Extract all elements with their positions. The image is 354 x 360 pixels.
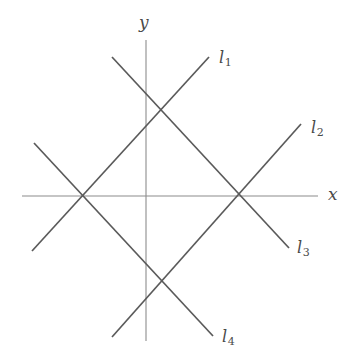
lines-group: [32, 57, 301, 337]
line-label-l1: l1: [219, 50, 232, 68]
line-label-l2: l2: [311, 120, 324, 138]
line-label-l2-subscript: 2: [316, 126, 324, 139]
line-label-l3: l3: [297, 240, 310, 258]
line-label-l4-subscript: 4: [227, 335, 235, 348]
line-label-l1-subscript: 1: [224, 56, 232, 69]
figure-canvas: x y l1 l2 l3 l4: [0, 0, 354, 360]
y-axis-label: y: [139, 14, 149, 31]
line-l1: [32, 57, 209, 251]
line-l4: [34, 143, 213, 336]
axes-group: [22, 40, 318, 341]
line-l3: [112, 57, 289, 248]
x-axis-label: x: [328, 186, 338, 203]
line-label-l4: l4: [222, 329, 235, 347]
line-label-l3-subscript: 3: [302, 246, 310, 259]
geometry-diagram-svg: [0, 0, 354, 360]
